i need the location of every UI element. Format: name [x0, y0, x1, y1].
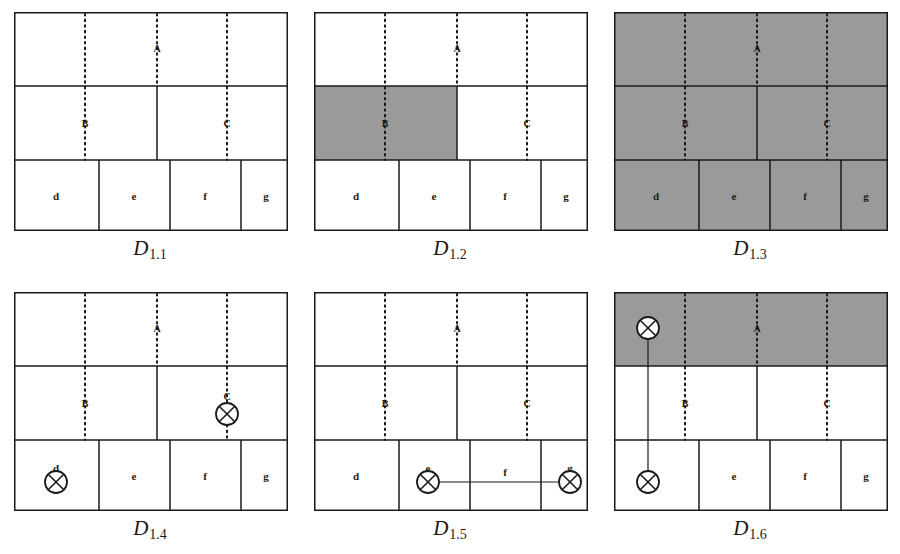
caption-d12: D1.2 — [300, 236, 600, 263]
node-label-b: B — [382, 398, 389, 409]
panel-d15: A B C d e f g — [300, 280, 600, 554]
cell-label-f: f — [503, 466, 507, 478]
cell-label-e: e — [732, 470, 737, 482]
cell-label-f: f — [203, 470, 207, 482]
caption-main: D — [433, 516, 448, 540]
grid-diagram-d12: A B C d e f g — [314, 12, 588, 231]
caption-sub: 1.4 — [149, 527, 167, 542]
caption-d16: D1.6 — [600, 516, 900, 543]
node-label-a: A — [453, 43, 461, 54]
figure-d13: A B C d e f g — [614, 12, 888, 231]
cell-label-g: g — [263, 470, 269, 482]
figure-d14: A B C d e f g — [14, 292, 288, 511]
panel-grid: A B C d e f g D1.1 — [0, 0, 900, 554]
cell-label-g: g — [263, 190, 269, 202]
caption-main: D — [133, 236, 148, 260]
figure-d15: A B C d e f g — [314, 292, 588, 511]
cell-label-f: f — [803, 470, 807, 482]
cell-label-d: d — [353, 190, 359, 202]
circled-x-icon-top — [637, 317, 659, 339]
caption-main: D — [433, 236, 448, 260]
caption-d13: D1.3 — [600, 236, 900, 263]
circled-x-icon-d — [45, 471, 67, 493]
grid-diagram-d13: A B C d e f g — [614, 12, 888, 231]
cell-label-g: g — [563, 190, 569, 202]
cell-label-e: e — [732, 190, 737, 202]
figure-page: A B C d e f g D1.1 — [0, 0, 900, 554]
panel-d12: A B C d e f g D1.2 — [300, 0, 600, 280]
caption-main: D — [133, 516, 148, 540]
node-label-a: A — [153, 43, 161, 54]
cell-label-e: e — [432, 190, 437, 202]
figure-d12: A B C d e f g — [314, 12, 588, 231]
caption-d15: D1.5 — [300, 516, 600, 543]
circled-x-icon-c — [216, 403, 238, 425]
panel-d11: A B C d e f g D1.1 — [0, 0, 300, 280]
node-label-a: A — [453, 323, 461, 334]
caption-main: D — [733, 516, 748, 540]
node-label-c: C — [523, 398, 530, 409]
cell-label-d: d — [353, 470, 359, 482]
grid-diagram-d16: A B C d e f g — [614, 292, 888, 511]
cell-label-e: e — [132, 190, 137, 202]
node-label-c: C — [823, 398, 830, 409]
panel-d16: A B C d e f g — [600, 280, 900, 554]
grid-diagram-d14: A B C d e f g — [14, 292, 288, 511]
circled-x-icon-e — [417, 471, 439, 493]
caption-sub: 1.6 — [749, 527, 767, 542]
node-label-a: A — [153, 323, 161, 334]
node-label-b: B — [682, 118, 689, 129]
node-label-a: A — [753, 43, 761, 54]
figure-d11: A B C d e f g — [14, 12, 288, 231]
node-label-c: C — [223, 391, 230, 402]
cell-label-g: g — [863, 190, 869, 202]
panel-d13: A B C d e f g D1.3 — [600, 0, 900, 280]
cell-label-f: f — [503, 190, 507, 202]
grid-diagram-d15: A B C d e f g — [314, 292, 588, 511]
grid-diagram-d11: A B C d e f g — [14, 12, 288, 231]
node-label-b: B — [82, 398, 89, 409]
caption-main: D — [733, 236, 748, 260]
caption-d11: D1.1 — [0, 236, 300, 263]
caption-sub: 1.5 — [449, 527, 467, 542]
caption-sub: 1.1 — [149, 247, 167, 262]
caption-d14: D1.4 — [0, 516, 300, 543]
node-label-c: C — [523, 118, 530, 129]
node-label-c: C — [223, 118, 230, 129]
node-label-b: B — [82, 118, 89, 129]
cell-label-d: d — [53, 190, 59, 202]
node-label-b: B — [682, 398, 689, 409]
cell-label-e: e — [132, 470, 137, 482]
cell-label-f: f — [803, 190, 807, 202]
caption-sub: 1.3 — [749, 247, 767, 262]
circled-x-icon-g — [559, 471, 581, 493]
circled-x-icon-d — [637, 471, 659, 493]
node-label-b: B — [382, 118, 389, 129]
panel-d14: A B C d e f g — [0, 280, 300, 554]
cell-label-f: f — [203, 190, 207, 202]
caption-sub: 1.2 — [449, 247, 467, 262]
node-label-a: A — [753, 323, 761, 334]
cell-label-d: d — [653, 190, 659, 202]
figure-d16: A B C d e f g — [614, 292, 888, 511]
cell-label-g: g — [863, 470, 869, 482]
markers-d14 — [45, 403, 238, 493]
node-label-c: C — [823, 118, 830, 129]
